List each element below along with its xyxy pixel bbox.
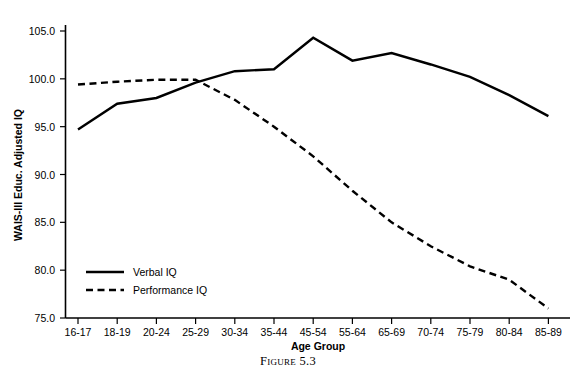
y-tick-label: 85.0 xyxy=(35,216,56,228)
x-axis-title-text: Age Group xyxy=(291,340,345,352)
y-axis-title: WAIS-III Educ. Adjusted IQ xyxy=(12,109,24,241)
x-tick-label: 85-89 xyxy=(535,326,562,338)
x-tick-label: 18-19 xyxy=(104,326,131,338)
y-tick-label: 75.0 xyxy=(35,312,56,324)
y-tick-label: 100.0 xyxy=(29,73,55,85)
x-tick-label: 80-84 xyxy=(496,326,523,338)
x-tick-label: 35-44 xyxy=(261,326,288,338)
y-tick-label: 95.0 xyxy=(35,121,56,133)
y-tick-label: 90.0 xyxy=(35,169,56,181)
x-tick-label: 30-34 xyxy=(221,326,248,338)
series-verbal-iq xyxy=(78,38,548,130)
y-tick-label: 80.0 xyxy=(35,264,56,276)
x-tick-label: 55-64 xyxy=(339,326,366,338)
x-tick-label: 75-79 xyxy=(457,326,484,338)
figure-container: WAIS-III Educ. Adjusted IQ 75.080.085.09… xyxy=(0,0,576,380)
x-axis-ticks: 16-1718-1920-2425-2930-3435-4445-5455-64… xyxy=(65,318,562,338)
chart-legend: Verbal IQPerformance IQ xyxy=(86,266,207,296)
x-tick-label: 70-74 xyxy=(417,326,444,338)
x-tick-label: 65-69 xyxy=(378,326,405,338)
y-axis-ticks: 75.080.085.090.095.0100.0105.0 xyxy=(29,25,66,324)
x-tick-label: 45-54 xyxy=(300,326,327,338)
x-tick-label: 20-24 xyxy=(143,326,170,338)
line-chart: WAIS-III Educ. Adjusted IQ 75.080.085.09… xyxy=(0,0,576,380)
figure-caption: Figure 5.3 xyxy=(0,354,576,369)
legend-label-1: Verbal IQ xyxy=(133,266,177,278)
y-tick-label: 105.0 xyxy=(29,25,55,37)
x-tick-label: 16-17 xyxy=(65,326,92,338)
legend-label-2: Performance IQ xyxy=(133,284,207,296)
x-tick-label: 25-29 xyxy=(182,326,209,338)
y-axis-title-text: WAIS-III Educ. Adjusted IQ xyxy=(12,109,24,241)
